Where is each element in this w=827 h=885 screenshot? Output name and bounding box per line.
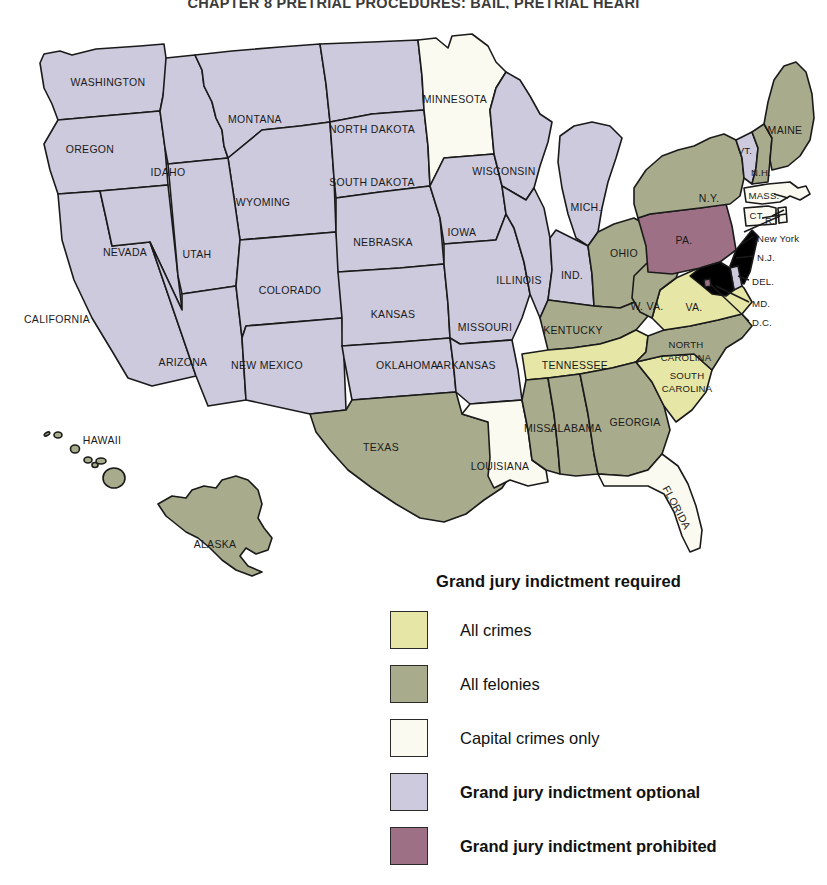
label-WY: WYOMING: [236, 196, 291, 208]
label-NM: NEW MEXICO: [231, 359, 303, 371]
label-NV: NEVADA: [103, 246, 147, 258]
label-UT: UTAH: [182, 248, 211, 260]
legend-label-optional: Grand jury indictment optional: [460, 783, 700, 802]
state-AK[interactable]: [158, 476, 272, 576]
label-WI: WISCONSIN: [472, 165, 535, 177]
legend-swatch-optional: [390, 773, 428, 811]
label-NY: N.Y.: [699, 192, 719, 204]
label-OK: OKLAHOMA: [376, 359, 438, 371]
label-LA: LOUISIANA: [471, 460, 530, 472]
state-NY[interactable]: [634, 134, 744, 218]
label-WV: W. VA.: [630, 300, 663, 312]
label-OH: OHIO: [610, 247, 638, 259]
legend-swatch-capital-crimes-only: [390, 719, 428, 757]
label-KY: KENTUCKY: [543, 324, 603, 336]
callout-labels-group: R.I.New YorkN.J.DEL.MD.D.C.: [752, 215, 799, 328]
label-MN: MINNESOTA: [423, 93, 487, 105]
label-MI: MICH.: [570, 201, 601, 213]
us-map-figure: WASHINGTONOREGONCALIFORNIANEVADAIDAHOMON…: [0, 18, 827, 578]
callout-nj: N.J.: [757, 252, 775, 263]
label-NE: NEBRASKA: [353, 236, 413, 248]
label-ME: MAINE: [768, 124, 803, 136]
united-states-map-svg: WASHINGTONOREGONCALIFORNIANEVADAIDAHOMON…: [0, 18, 827, 578]
label-AR: ARKANSAS: [436, 359, 496, 371]
legend-label-prohibited: Grand jury indictment prohibited: [460, 837, 717, 856]
running-head: CHAPTER 8 PRETRIAL PROCEDURES: BAIL, PRE…: [0, 0, 827, 9]
label-SD: SOUTH DAKOTA: [329, 176, 415, 188]
state-UT[interactable]: [168, 158, 240, 294]
map-legend: Grand jury indictment required All crime…: [390, 572, 827, 873]
label-CT: CT.: [750, 210, 765, 221]
legend-row-capital-crimes-only[interactable]: Capital crimes only: [390, 711, 827, 765]
state-ND[interactable]: [320, 40, 424, 122]
label-MT: MONTANA: [228, 113, 282, 125]
legend-row-all-crimes[interactable]: All crimes: [390, 603, 827, 657]
label-VA: VA.: [685, 301, 702, 313]
legend-swatch-all-crimes: [390, 611, 428, 649]
callout-del: DEL.: [752, 276, 774, 287]
label-TN: TENNESSEE: [542, 359, 608, 371]
label-CA: CALIFORNIA: [24, 313, 90, 325]
legend-swatch-all-felonies: [390, 665, 428, 703]
label-ND: NORTH DAKOTA: [329, 123, 415, 135]
callout-dc: D.C.: [752, 317, 772, 328]
label-AK: ALASKA: [194, 538, 237, 550]
label-VT: VT.: [738, 145, 752, 156]
legend-row-optional[interactable]: Grand jury indictment optional: [390, 765, 827, 819]
callout-md: MD.: [752, 298, 770, 309]
legend-title: Grand jury indictment required: [436, 572, 827, 591]
label-AL: ALABAMA: [550, 422, 602, 434]
legend-label-capital-crimes-only: Capital crimes only: [460, 729, 599, 748]
label-MA: MASS.: [749, 190, 780, 201]
label-NH: N.H.: [751, 167, 771, 178]
label-PA: PA.: [675, 234, 692, 246]
legend-label-all-felonies: All felonies: [460, 675, 540, 694]
label-IN: IND.: [561, 269, 583, 281]
state-AR[interactable]: [450, 338, 522, 404]
label-WA: WASHINGTON: [71, 76, 146, 88]
legend-row-prohibited[interactable]: Grand jury indictment prohibited: [390, 819, 827, 873]
state-NE[interactable]: [336, 186, 444, 272]
label-IL: ILLINOIS: [496, 274, 542, 286]
label-HI: HAWAII: [83, 434, 121, 446]
legend-label-all-crimes: All crimes: [460, 621, 532, 640]
legend-row-all-felonies[interactable]: All felonies: [390, 657, 827, 711]
label-KS: KANSAS: [371, 308, 415, 320]
label-GA: GEORGIA: [609, 416, 660, 428]
legend-rows: All crimesAll feloniesCapital crimes onl…: [390, 603, 827, 873]
label-ID: IDAHO: [151, 166, 186, 178]
legend-swatch-prohibited: [390, 827, 428, 865]
state-ME[interactable]: [764, 62, 814, 170]
state-KS[interactable]: [338, 264, 450, 346]
state-DC[interactable]: [704, 279, 711, 287]
label-CO: COLORADO: [259, 284, 322, 296]
label-TX: TEXAS: [363, 441, 399, 453]
label-AZ: ARIZONA: [159, 356, 208, 368]
callout-ri: R.I.: [765, 215, 781, 226]
map-page: CHAPTER 8 PRETRIAL PROCEDURES: BAIL, PRE…: [0, 0, 827, 885]
label-OR: OREGON: [66, 143, 114, 155]
callout-newyork: New York: [757, 233, 799, 244]
label-IA: IOWA: [448, 226, 477, 238]
label-MO: MISSOURI: [458, 321, 512, 333]
